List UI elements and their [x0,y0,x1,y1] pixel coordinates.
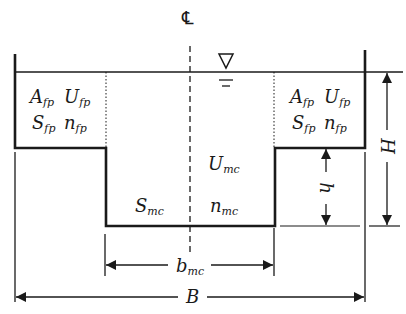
right-fp-slope-label: Sfp [292,112,315,135]
mc-velocity-label: Umc [208,153,240,176]
centerline-symbol: ℄ [181,7,194,28]
right-fp-roughness-label: nfp [324,112,347,135]
right-fp-velocity-label: Ufp [324,86,350,109]
h-label: h [316,182,337,194]
B-label: B [185,286,199,307]
left-fp-velocity-label: Ufp [64,86,90,109]
left-fp-area-label: Afp [28,86,54,109]
mc-slope-label: Smc [135,195,164,218]
mc-roughness-label: nmc [210,195,238,218]
left-fp-slope-label: Sfp [32,112,55,135]
compound-channel-diagram: ℄ h H bmc B Afp Ufp Sfp nfp Afp Ufp Sfp … [0,0,406,314]
water-surface-icon [219,54,233,86]
left-fp-roughness-label: nfp [64,112,87,135]
bmc-label: bmc [176,255,204,278]
right-fp-area-label: Afp [288,86,314,109]
H-label: H [377,137,398,154]
